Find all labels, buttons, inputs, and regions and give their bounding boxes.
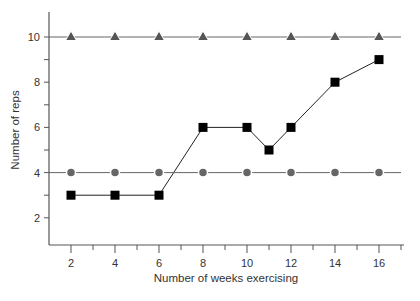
circle-marker (331, 168, 340, 177)
series-squares (67, 55, 384, 200)
circle-marker (155, 168, 164, 177)
axes: 246810246810121416 (28, 12, 404, 269)
circle-marker (287, 168, 296, 177)
x-tick-label: 12 (285, 257, 297, 269)
circle-marker (67, 168, 76, 177)
y-tick-label: 2 (34, 212, 40, 224)
series-layer (49, 31, 401, 200)
line-chart: 246810246810121416 Number of weeks exerc… (0, 0, 420, 301)
square-marker (67, 191, 76, 200)
circle-marker (243, 168, 252, 177)
circle-marker (375, 168, 384, 177)
square-marker (199, 123, 208, 132)
square-marker (111, 191, 120, 200)
x-tick-label: 16 (373, 257, 385, 269)
triangle-marker (154, 31, 165, 41)
y-tick-label: 4 (34, 167, 40, 179)
square-marker (375, 55, 384, 64)
circle-marker (199, 168, 208, 177)
x-tick-label: 2 (68, 257, 74, 269)
x-tick-label: 14 (329, 257, 341, 269)
square-marker (265, 146, 274, 155)
circle-marker (111, 168, 120, 177)
x-tick-label: 8 (200, 257, 206, 269)
square-marker (287, 123, 296, 132)
square-marker (243, 123, 252, 132)
x-tick-label: 4 (112, 257, 118, 269)
triangle-marker (66, 31, 77, 41)
y-tick-label: 10 (28, 31, 40, 43)
triangle-marker (374, 31, 385, 41)
y-tick-label: 8 (34, 76, 40, 88)
triangle-marker (330, 31, 341, 41)
y-axis-label: Number of reps (9, 90, 21, 170)
triangle-marker (110, 31, 121, 41)
y-tick-label: 6 (34, 121, 40, 133)
triangle-marker (198, 31, 209, 41)
series-triangles (49, 31, 401, 41)
triangle-marker (242, 31, 253, 41)
x-tick-label: 10 (241, 257, 253, 269)
triangle-marker (286, 31, 297, 41)
series-circles (49, 168, 401, 177)
x-tick-label: 6 (156, 257, 162, 269)
square-marker (331, 78, 340, 87)
x-axis-label: Number of weeks exercising (154, 272, 298, 284)
square-marker (155, 191, 164, 200)
